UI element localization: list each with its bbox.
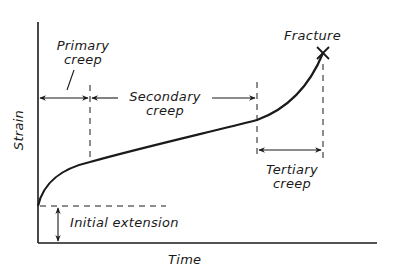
tertiary-creep-label-line1: Tertiary [256, 163, 328, 177]
primary-creep-label-line2: creep [46, 53, 120, 67]
fracture-x-icon [317, 47, 329, 59]
y-axis-label: Strain [12, 105, 26, 155]
tertiary-creep-label: Tertiary creep [256, 163, 328, 191]
primary-creep-label-line1: Primary [46, 39, 120, 53]
tertiary-creep-label-line2: creep [256, 177, 328, 191]
secondary-creep-label-line2: creep [118, 104, 212, 118]
x-axis-label: Time [168, 253, 201, 267]
secondary-creep-label-line1: Secondary [118, 90, 212, 104]
primary-creep-label: Primary creep [46, 39, 120, 67]
initial-extension-label: Initial extension [70, 216, 179, 230]
fracture-label: Fracture [284, 29, 341, 43]
primary-creep-leader [67, 70, 74, 90]
secondary-creep-label: Secondary creep [118, 90, 212, 118]
creep-curve-diagram: Primary creep Secondary creep Tertiary c… [0, 0, 403, 276]
